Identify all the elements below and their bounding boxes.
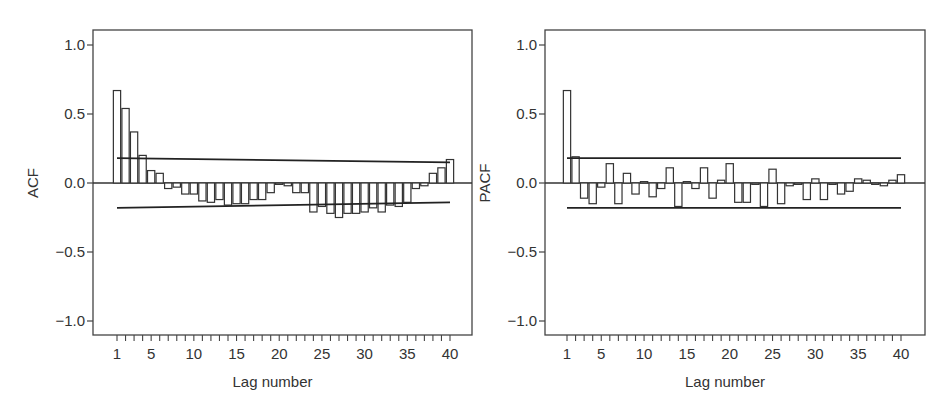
correlation-bar bbox=[404, 183, 411, 202]
x-tick-label: 10 bbox=[186, 345, 203, 362]
correlation-bar bbox=[301, 183, 308, 193]
correlation-bar bbox=[709, 183, 716, 198]
correlation-bar bbox=[233, 183, 240, 204]
correlation-bar bbox=[122, 108, 129, 183]
correlation-bar bbox=[743, 183, 750, 202]
correlation-bar bbox=[606, 164, 613, 183]
correlation-bar bbox=[872, 183, 879, 184]
correlation-bar bbox=[572, 157, 579, 183]
y-tick-label: 0.5 bbox=[64, 105, 85, 122]
correlation-bar bbox=[718, 180, 725, 183]
correlation-bar bbox=[173, 183, 180, 187]
x-tick-label: 20 bbox=[721, 345, 738, 362]
correlation-bar bbox=[267, 183, 274, 193]
correlation-bar bbox=[640, 182, 647, 183]
correlation-bar bbox=[352, 183, 359, 213]
correlation-bar bbox=[795, 183, 802, 184]
correlation-bar bbox=[649, 183, 656, 197]
x-tick-label: 30 bbox=[356, 345, 373, 362]
correlation-bar bbox=[241, 183, 248, 204]
correlation-bar bbox=[293, 183, 300, 193]
y-tick-label: −1.0 bbox=[55, 312, 85, 329]
correlation-bar bbox=[207, 183, 214, 202]
correlation-bar bbox=[889, 180, 896, 183]
x-tick-label: 25 bbox=[314, 345, 331, 362]
acf-panel: 1.00.50.0−0.5−1.01510152025303540Lag num… bbox=[24, 30, 472, 390]
correlation-bar bbox=[190, 183, 197, 194]
x-tick-label: 10 bbox=[636, 345, 653, 362]
correlation-bar bbox=[803, 183, 810, 200]
correlation-bar bbox=[752, 183, 759, 184]
correlation-bar bbox=[880, 183, 887, 186]
correlation-bar bbox=[259, 183, 266, 200]
correlation-bar bbox=[735, 183, 742, 202]
upper-confidence-limit bbox=[117, 158, 450, 162]
correlation-bar bbox=[387, 183, 394, 205]
correlation-bar bbox=[182, 183, 189, 194]
correlation-bar bbox=[310, 183, 317, 212]
correlation-bar bbox=[769, 169, 776, 183]
correlation-bar bbox=[276, 183, 283, 184]
correlation-bar bbox=[199, 183, 206, 201]
correlation-bar bbox=[829, 183, 836, 184]
x-tick-label: 30 bbox=[807, 345, 824, 362]
correlation-bar bbox=[250, 183, 257, 200]
y-tick-label: 0.0 bbox=[64, 174, 85, 191]
acf-pacf-figure: 1.00.50.0−0.5−1.01510152025303540Lag num… bbox=[0, 0, 950, 408]
x-tick-label: 35 bbox=[850, 345, 867, 362]
y-tick-label: 1.0 bbox=[64, 36, 85, 53]
correlation-bar bbox=[421, 183, 428, 186]
x-tick-label: 35 bbox=[399, 345, 416, 362]
x-tick-label: 15 bbox=[228, 345, 245, 362]
correlation-bar bbox=[812, 179, 819, 183]
y-tick-label: 0.0 bbox=[516, 174, 537, 191]
correlation-bar bbox=[327, 183, 334, 213]
correlation-bar bbox=[563, 91, 570, 183]
correlation-bar bbox=[615, 183, 622, 204]
y-tick-label: −0.5 bbox=[507, 243, 537, 260]
chart-canvas: 1.00.50.0−0.5−1.01510152025303540Lag num… bbox=[0, 0, 950, 408]
x-tick-label: 5 bbox=[597, 345, 605, 362]
y-axis-label: PACF bbox=[476, 164, 493, 203]
correlation-bar bbox=[837, 183, 844, 194]
correlation-bar bbox=[344, 183, 351, 213]
y-tick-label: −1.0 bbox=[507, 312, 537, 329]
correlation-bar bbox=[760, 183, 767, 206]
correlation-bar bbox=[156, 173, 163, 183]
y-tick-label: 1.0 bbox=[516, 36, 537, 53]
correlation-bar bbox=[412, 183, 419, 189]
x-tick-label: 20 bbox=[271, 345, 288, 362]
correlation-bar bbox=[318, 183, 325, 206]
correlation-bar bbox=[855, 179, 862, 183]
correlation-bar bbox=[598, 183, 605, 187]
correlation-bar bbox=[786, 183, 793, 186]
correlation-bar bbox=[777, 183, 784, 204]
correlation-bar bbox=[148, 171, 155, 183]
x-tick-label: 5 bbox=[147, 345, 155, 362]
correlation-bar bbox=[216, 183, 223, 200]
pacf-panel: 1.00.50.0−0.5−1.01510152025303540Lag num… bbox=[476, 30, 925, 390]
correlation-bar bbox=[113, 91, 120, 183]
correlation-bar bbox=[361, 183, 368, 212]
correlation-bar bbox=[863, 180, 870, 183]
correlation-bar bbox=[335, 183, 342, 218]
correlation-bar bbox=[726, 164, 733, 183]
correlation-bar bbox=[139, 155, 146, 183]
correlation-bar bbox=[658, 183, 665, 189]
correlation-bar bbox=[378, 183, 385, 212]
x-axis-label: Lag number bbox=[685, 373, 765, 390]
correlation-bar bbox=[623, 173, 630, 183]
y-tick-label: 0.5 bbox=[516, 105, 537, 122]
x-tick-label: 40 bbox=[893, 345, 910, 362]
x-tick-label: 15 bbox=[679, 345, 696, 362]
y-tick-label: −0.5 bbox=[55, 243, 85, 260]
correlation-bar bbox=[675, 183, 682, 206]
x-tick-label: 25 bbox=[764, 345, 781, 362]
x-tick-label: 40 bbox=[442, 345, 459, 362]
correlation-bar bbox=[846, 183, 853, 191]
correlation-bar bbox=[224, 183, 231, 205]
x-axis-label: Lag number bbox=[232, 373, 312, 390]
correlation-bar bbox=[897, 175, 904, 183]
correlation-bar bbox=[589, 183, 596, 204]
correlation-bar bbox=[438, 168, 445, 183]
